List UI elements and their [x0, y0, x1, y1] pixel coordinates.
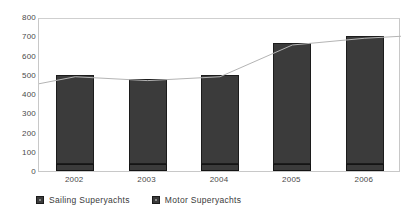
bar-group-2002 — [56, 17, 94, 171]
bar-group-2003 — [129, 17, 167, 171]
legend-label: Sailing Superyachts — [49, 195, 130, 205]
x-axis: 20022003200420052006 — [38, 175, 400, 187]
bar-segment-motor-superyachts-2003 — [129, 79, 167, 165]
bar-segment-motor-superyachts-2006 — [346, 36, 384, 164]
legend-label: Motor Superyachts — [165, 195, 241, 205]
bar-segment-sailing-superyachts-2005 — [273, 164, 311, 171]
plot-inner — [39, 19, 399, 171]
legend-swatch-motor — [152, 196, 160, 204]
y-tick-label: 800 — [2, 14, 36, 22]
y-tick-label: 0 — [2, 168, 36, 176]
y-tick-label: 700 — [2, 33, 36, 41]
x-tick-label-2005: 2005 — [271, 175, 311, 185]
y-axis: 8007006005004003002001000 — [0, 0, 36, 215]
y-tick-label: 100 — [2, 149, 36, 157]
bar-segment-motor-superyachts-2004 — [201, 75, 239, 165]
x-tick-label-2006: 2006 — [344, 175, 384, 185]
superyacht-deliveries-chart: 8007006005004003002001000 20022003200420… — [0, 0, 420, 215]
bar-group-2004 — [201, 17, 239, 171]
legend-swatch-sailing — [36, 196, 44, 204]
bar-segment-motor-superyachts-2005 — [273, 43, 311, 164]
bar-segment-sailing-superyachts-2003 — [129, 164, 167, 171]
x-tick-label-2003: 2003 — [127, 175, 167, 185]
y-tick-label: 400 — [2, 91, 36, 99]
y-tick-label: 600 — [2, 53, 36, 61]
x-tick-label-2002: 2002 — [54, 175, 94, 185]
y-tick-label: 300 — [2, 110, 36, 118]
legend-entry-motor-superyachts[interactable]: Motor Superyachts — [152, 195, 241, 205]
chart-legend: Sailing SuperyachtsMotor Superyachts — [36, 193, 241, 207]
bar-segment-sailing-superyachts-2006 — [346, 164, 384, 171]
y-tick-label: 200 — [2, 130, 36, 138]
bar-segment-sailing-superyachts-2002 — [56, 164, 94, 171]
y-tick-label: 500 — [2, 72, 36, 80]
legend-entry-sailing-superyachts[interactable]: Sailing Superyachts — [36, 195, 130, 205]
x-tick-label-2004: 2004 — [199, 175, 239, 185]
bar-group-2006 — [346, 17, 384, 171]
bar-segment-sailing-superyachts-2004 — [201, 164, 239, 171]
plot-area — [38, 18, 400, 172]
bar-group-2005 — [273, 17, 311, 171]
bar-segment-motor-superyachts-2002 — [56, 75, 94, 165]
